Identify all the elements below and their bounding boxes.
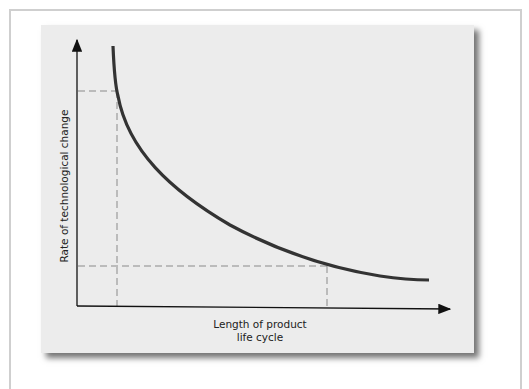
x-axis-label-line1: Length of product	[200, 318, 320, 331]
inverse-curve	[113, 46, 429, 280]
y-axis-label: Rate of technological change	[58, 86, 70, 286]
x-axis	[77, 306, 450, 309]
x-axis-label: Length of product life cycle	[200, 318, 320, 344]
reference-lines	[78, 91, 327, 306]
x-axis-label-line2: life cycle	[200, 331, 320, 344]
